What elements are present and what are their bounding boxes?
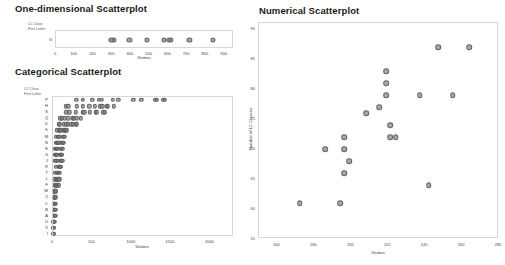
y-tick-label-Z: Z bbox=[34, 194, 48, 199]
data-point bbox=[61, 140, 65, 144]
data-point bbox=[57, 177, 61, 181]
x-tick-label: 0 bbox=[51, 239, 53, 244]
data-point bbox=[57, 183, 61, 187]
data-point bbox=[323, 146, 329, 152]
y-tick-label-Q: Q bbox=[34, 115, 48, 120]
y-tick-label-U: U bbox=[34, 218, 48, 223]
x-tick-label: 200 bbox=[89, 51, 96, 56]
data-point bbox=[100, 98, 104, 102]
data-point bbox=[65, 128, 69, 132]
data-point bbox=[81, 104, 85, 108]
y-tick-label: 55 bbox=[245, 236, 255, 241]
data-point bbox=[144, 37, 149, 42]
data-point bbox=[67, 110, 71, 114]
x-tick-label: 800 bbox=[202, 51, 209, 56]
one-dimensional-y-axis-title: LC Class First Letter bbox=[28, 22, 45, 32]
x-tick-label: 1000 bbox=[126, 239, 135, 244]
data-point bbox=[52, 220, 56, 224]
data-point bbox=[95, 110, 99, 114]
panel-categorical-scatterplot: Categorical Scatterplot LC Class First L… bbox=[0, 62, 240, 265]
data-point bbox=[163, 98, 167, 102]
y-tick-label-N: N bbox=[34, 139, 48, 144]
y-tick-label-A: A bbox=[34, 212, 48, 217]
panel-numerical-scatterplot: Numerical Scatterplot Number of LC Class… bbox=[245, 0, 505, 265]
x-tick-label: 900 bbox=[220, 51, 227, 56]
data-point bbox=[111, 37, 116, 42]
data-point bbox=[155, 98, 159, 102]
y-tick-label: 60 bbox=[245, 206, 255, 211]
data-point bbox=[60, 147, 64, 151]
data-point bbox=[106, 104, 110, 108]
x-tick-label: 240 bbox=[421, 242, 428, 247]
categorical-baseline bbox=[52, 96, 53, 236]
y-tick-label-F: F bbox=[34, 182, 48, 187]
y-tick-label-H: H bbox=[34, 103, 48, 108]
panel-one-dimensional-scatterplot: One-dimensional Scatterplot LC Class Fir… bbox=[0, 0, 240, 62]
x-tick-label: 700 bbox=[183, 51, 190, 56]
categorical-x-axis-title: Visitors bbox=[135, 244, 149, 249]
data-point bbox=[187, 37, 192, 42]
data-point bbox=[384, 68, 390, 74]
data-point bbox=[384, 92, 390, 98]
y-tick-label-V: V bbox=[34, 224, 48, 229]
y-tick-label: 80 bbox=[245, 86, 255, 91]
data-point bbox=[81, 98, 85, 102]
y-axis-title-line-2: First Letter bbox=[28, 27, 45, 32]
data-point bbox=[74, 104, 78, 108]
data-point bbox=[53, 201, 57, 205]
x-tick-label: 180 bbox=[310, 242, 317, 247]
data-point bbox=[60, 153, 64, 157]
data-point bbox=[53, 207, 57, 211]
x-tick-label: 1500 bbox=[166, 239, 175, 244]
data-point bbox=[384, 80, 390, 86]
numerical-chart-title: Numerical Scatterplot bbox=[259, 5, 359, 16]
data-point bbox=[111, 98, 115, 102]
y-tick-label-D: D bbox=[34, 121, 48, 126]
data-point bbox=[210, 37, 215, 42]
y-tick-label: 65 bbox=[245, 176, 255, 181]
x-tick-label: 200 bbox=[347, 242, 354, 247]
y-tick-label-P: P bbox=[34, 97, 48, 102]
categorical-plot-area bbox=[52, 96, 233, 236]
y-tick-label-M: M bbox=[34, 133, 48, 138]
x-tick-label: 0 bbox=[54, 51, 56, 56]
one-dimensional-plot-area bbox=[55, 30, 233, 48]
data-point bbox=[53, 213, 57, 217]
data-point bbox=[168, 37, 173, 42]
y-tick-label-J: J bbox=[34, 157, 48, 162]
x-tick-label: 160 bbox=[273, 242, 280, 247]
data-point bbox=[131, 98, 135, 102]
data-point bbox=[387, 122, 393, 128]
x-tick-label: 2000 bbox=[205, 239, 214, 244]
x-tick-label: 300 bbox=[108, 51, 115, 56]
x-tick-label: 260 bbox=[458, 242, 465, 247]
data-point bbox=[74, 110, 78, 114]
x-tick-label: 600 bbox=[164, 51, 171, 56]
y-tick-label-S: S bbox=[34, 109, 48, 114]
data-point bbox=[337, 200, 343, 206]
data-point bbox=[111, 104, 115, 108]
y-tick-label-R: R bbox=[34, 164, 48, 169]
data-point bbox=[347, 158, 353, 164]
data-point bbox=[363, 110, 369, 116]
y-tick-label: 90 bbox=[245, 26, 255, 31]
y-tick-label-E: E bbox=[34, 145, 48, 150]
data-point bbox=[88, 110, 92, 114]
x-tick-label: 220 bbox=[384, 242, 391, 247]
data-point bbox=[116, 98, 120, 102]
y-tick-label: 85 bbox=[245, 56, 255, 61]
y-tick-label-C: C bbox=[34, 200, 48, 205]
scatterplot-gallery: One-dimensional Scatterplot LC Class Fir… bbox=[0, 0, 505, 265]
data-point bbox=[393, 134, 399, 140]
data-point bbox=[90, 98, 94, 102]
data-point bbox=[467, 44, 473, 50]
data-point bbox=[435, 44, 441, 50]
data-point bbox=[74, 98, 78, 102]
data-point bbox=[341, 146, 347, 152]
data-point bbox=[139, 98, 143, 102]
data-point bbox=[426, 182, 432, 188]
x-tick-label: 280 bbox=[495, 242, 502, 247]
data-point bbox=[78, 116, 82, 120]
y-tick-label-K: K bbox=[34, 127, 48, 132]
data-point bbox=[62, 134, 66, 138]
